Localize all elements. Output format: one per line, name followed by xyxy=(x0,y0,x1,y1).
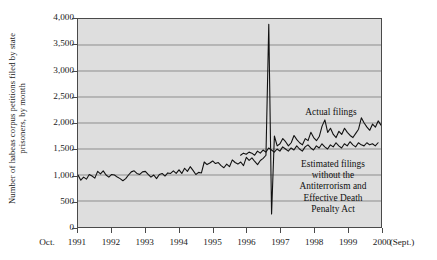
y-tick-mark xyxy=(72,97,77,98)
y-tick-mark xyxy=(72,149,77,150)
y-tick-mark xyxy=(72,71,77,72)
y-tick-mark xyxy=(72,123,77,124)
habeas-corpus-filings-chart: Number of habeas corpus petitions filed … xyxy=(0,0,437,260)
y-tick-mark xyxy=(72,44,77,45)
y-tick-mark xyxy=(72,18,77,19)
y-tick-mark xyxy=(72,202,77,203)
y-tick-mark xyxy=(72,176,77,177)
y-axis-tick-marks xyxy=(0,0,437,260)
y-tick-mark xyxy=(72,228,77,229)
